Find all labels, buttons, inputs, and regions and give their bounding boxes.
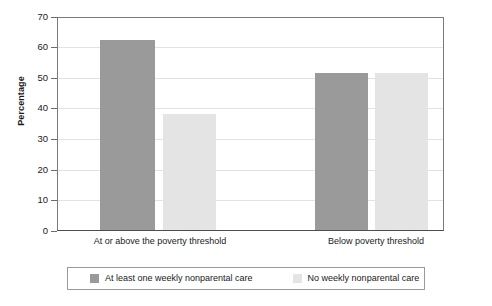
- chart-legend: At least one weekly nonparental care No …: [67, 267, 425, 290]
- y-axis-title: Percentage: [16, 56, 26, 146]
- y-tick-label-50: 50: [10, 73, 48, 83]
- y-tick-label-0: 0: [10, 226, 48, 236]
- legend-swatch-icon-series1: [90, 274, 99, 283]
- legend-swatch-icon-series2: [293, 274, 302, 283]
- y-tick-label-70: 70: [10, 12, 48, 22]
- legend-item-series1: At least one weekly nonparental care: [90, 274, 253, 283]
- y-tick-label-60: 60: [10, 42, 48, 52]
- plot-area: [57, 17, 444, 231]
- y-tick-label-20: 20: [10, 165, 48, 175]
- x-category-label-2: Below poverty threshold: [266, 236, 486, 246]
- bar-group2-series1: [315, 73, 368, 230]
- legend-label-series2: No weekly nonparental care: [308, 274, 420, 283]
- y-tick-0: [51, 231, 57, 232]
- bar-group2-series2: [375, 73, 428, 230]
- y-tick-label-30: 30: [10, 134, 48, 144]
- y-tick-label-40: 40: [10, 103, 48, 113]
- y-tick-label-10: 10: [10, 195, 48, 205]
- bar-group1-series1: [100, 40, 155, 230]
- legend-item-series2: No weekly nonparental care: [293, 274, 420, 283]
- legend-label-series1: At least one weekly nonparental care: [105, 274, 253, 283]
- bar-group1-series2: [163, 114, 216, 230]
- bar-chart: Percentage 70 60 50 40 30 20 10 0 At or …: [0, 0, 492, 306]
- x-category-label-1: At or above the poverty threshold: [40, 236, 280, 246]
